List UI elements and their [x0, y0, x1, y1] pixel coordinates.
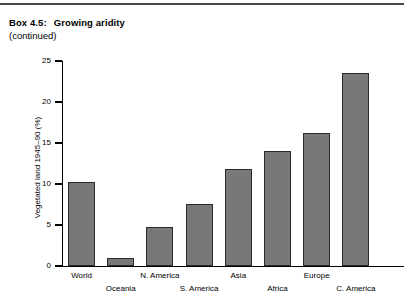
- y-tick-label: 25: [31, 57, 51, 65]
- plot-area: [63, 61, 404, 266]
- x-axis-label: N. America: [123, 271, 197, 280]
- x-axis-label: Africa: [241, 284, 315, 293]
- bar: [186, 204, 213, 266]
- bar: [342, 73, 369, 266]
- x-axis-label: Europe: [280, 271, 354, 280]
- x-axis-label: Oceania: [84, 284, 158, 293]
- y-tick-mark: [55, 265, 62, 266]
- y-tick-label: 10: [31, 180, 51, 188]
- x-axis-label: S. America: [162, 284, 236, 293]
- y-tick-mark: [55, 101, 62, 102]
- y-tick-mark: [55, 224, 62, 225]
- bar: [225, 169, 252, 266]
- y-tick-label: 20: [31, 98, 51, 106]
- bar: [303, 133, 330, 266]
- y-tick-label: 5: [31, 221, 51, 229]
- bar: [107, 258, 134, 266]
- x-axis-label: Asia: [201, 271, 275, 280]
- y-tick-mark: [55, 183, 62, 184]
- bar: [146, 227, 173, 266]
- y-tick-mark: [55, 142, 62, 143]
- x-axis-label: C. America: [319, 284, 393, 293]
- y-tick-mark: [55, 60, 62, 61]
- x-axis-line: [62, 266, 404, 267]
- bar-chart: Vegetated land 1945–90 (%) 0510152025 Wo…: [0, 0, 404, 299]
- y-tick-label: 15: [31, 139, 51, 147]
- x-axis-label: World: [45, 271, 119, 280]
- bar: [68, 182, 95, 266]
- y-tick-label: 0: [31, 262, 51, 270]
- bar: [264, 151, 291, 266]
